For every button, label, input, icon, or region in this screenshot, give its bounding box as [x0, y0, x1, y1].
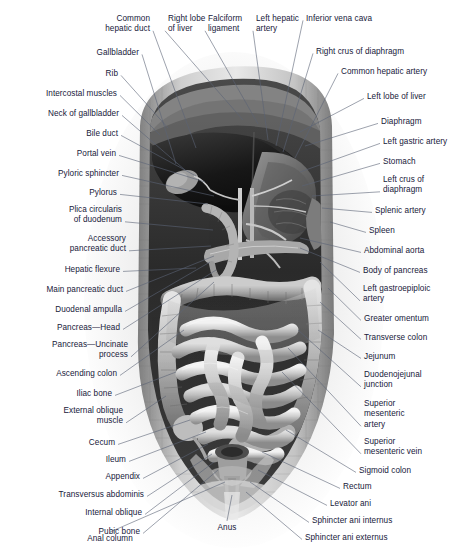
label-sphincter-ani-externus: Sphincter ani externus — [305, 533, 388, 543]
label-right-crus-of-diaphragm: Right crus of diaphragm — [316, 47, 404, 57]
label-pylorus: Pylorus — [89, 188, 117, 198]
label-pyloric-sphincter: Pyloric sphincter — [58, 169, 119, 179]
label-main-pancreatic-duct: Main pancreatic duct — [46, 285, 123, 295]
label-left-hepatic-artery: Left hepatic artery — [256, 14, 299, 35]
label-portal-vein: Portal vein — [77, 149, 116, 159]
label-falciform-ligament: Falciform ligament — [208, 14, 242, 35]
label-superior-mesenteric-vein: Superior mesenteric vein — [364, 437, 422, 458]
label-duodenojejunal-junction: Duodenojejunal junction — [364, 370, 422, 391]
label-splenic-artery: Splenic artery — [375, 206, 426, 216]
label-stomach: Stomach — [383, 157, 416, 167]
label-rectum: Rectum — [343, 482, 372, 492]
label-neck-of-gallbladder: Neck of gallbladder — [48, 109, 119, 119]
label-bile-duct: Bile duct — [86, 129, 118, 139]
label-body-of-pancreas: Body of pancreas — [363, 266, 428, 276]
label-left-gastroepiploic-artery: Left gastroepiploic artery — [363, 284, 430, 305]
label-levator-ani: Levator ani — [330, 499, 371, 509]
label-superior-mesenteric-artery: Superior mesenteric artery — [364, 399, 405, 430]
label-left-crus-of-diaphragm: Left crus of diaphragm — [383, 175, 424, 196]
label-intercostal-muscles: Intercostal muscles — [46, 89, 117, 99]
label-abdominal-aorta: Abdominal aorta — [364, 246, 424, 256]
label-pancreas-uncinate: Pancreas—Uncinate process — [52, 340, 128, 361]
label-greater-omentum: Greater omentum — [364, 314, 429, 324]
label-left-gastric-artery: Left gastric artery — [383, 137, 447, 147]
label-inferior-vena-cava: Inferior vena cava — [306, 14, 372, 24]
label-common-hepatic-duct: Common hepatic duct — [105, 14, 150, 35]
label-pancreas-head: Pancreas—Head — [57, 323, 120, 333]
anatomy-figure: Common hepatic ductGallbladderRibInterco… — [0, 0, 464, 555]
label-plica-circularis: Plica circularis of duodenum — [69, 205, 122, 226]
label-common-hepatic-artery: Common hepatic artery — [341, 67, 427, 77]
label-anal-column: Anal column — [87, 534, 133, 544]
label-jejunum: Jejunum — [364, 352, 395, 362]
label-ileum: Ileum — [106, 455, 126, 465]
label-right-lobe-of-liver: Right lobe of liver — [168, 14, 205, 35]
label-sphincter-ani-internus: Sphincter ani internus — [312, 516, 392, 526]
label-sigmoid-colon: Sigmoid colon — [359, 466, 411, 476]
label-appendix: Appendix — [105, 472, 140, 482]
label-iliac-bone: Iliac bone — [76, 389, 112, 399]
label-anus: Anus — [218, 523, 237, 533]
label-transversus-abdominis: Transversus abdominis — [59, 490, 144, 500]
label-cecum: Cecum — [89, 438, 115, 448]
label-accessory-pancreatic-duct: Accessory pancreatic duct — [70, 234, 126, 255]
label-spleen: Spleen — [369, 226, 395, 236]
label-hepatic-flexure: Hepatic flexure — [65, 265, 120, 275]
label-rib: Rib — [106, 69, 118, 79]
label-duodenal-ampulla: Duodenal ampulla — [55, 305, 122, 315]
label-internal-oblique: Internal oblique — [85, 508, 142, 518]
label-transverse-colon: Transverse colon — [364, 333, 427, 343]
label-gallbladder: Gallbladder — [97, 48, 139, 58]
label-left-lobe-of-liver: Left lobe of liver — [367, 92, 426, 102]
label-external-oblique-muscle: External oblique muscle — [63, 406, 123, 427]
label-ascending-colon: Ascending colon — [56, 369, 117, 379]
label-diaphragm: Diaphragm — [381, 117, 422, 127]
